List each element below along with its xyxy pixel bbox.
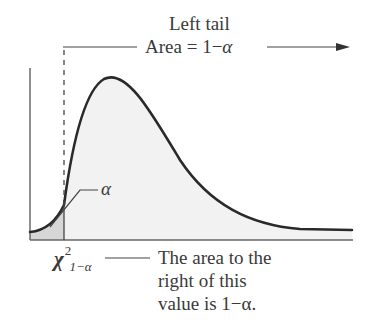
critical-value-label: χ 2 1−α [54,248,92,273]
alpha-label: α [101,178,111,200]
arrowhead-icon [336,43,350,51]
note-line-2: right of this [158,270,247,292]
right-area-fill [64,77,352,240]
diagram-title: Left tail [169,13,230,35]
area-label-prefix: Area = 1− [145,36,222,57]
left-tail-fill [30,205,64,240]
note-line-1: The area to the [158,247,271,269]
chi-symbol: χ [54,247,64,271]
chi-subscript: 1−α [70,259,92,274]
area-label-alpha: α [222,36,232,57]
area-label: Area = 1−α [145,36,232,58]
note-line-3: value is 1−α. [158,293,256,315]
